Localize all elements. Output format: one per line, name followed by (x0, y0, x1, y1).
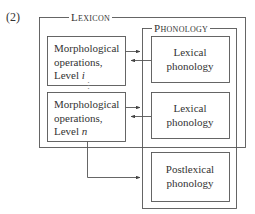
lexical-phonology-1-text: Lexical phonology (151, 46, 229, 73)
morph-line1: Morphological (54, 98, 119, 112)
example-number: (2) (6, 11, 20, 24)
level-var: n (82, 125, 88, 137)
morph-line2: operations, (54, 112, 119, 126)
level-label: Level (54, 69, 82, 81)
postlexical-text: Postlexical phonology (151, 163, 229, 190)
lexical-phonology-2-text: Lexical phonology (151, 102, 229, 129)
ellipsis: ⋮ (84, 80, 93, 93)
phonology-title: Phonology (152, 22, 210, 34)
postlexical-line2: phonology (151, 177, 229, 191)
lexical-line2: phonology (151, 60, 229, 74)
morph-box-level-i-text: Morphological operations, Level i (54, 42, 119, 83)
morph-box-level-n-text: Morphological operations, Level n (54, 98, 119, 139)
postlexical-line1: Postlexical (151, 163, 229, 177)
lexicon-title: Lexicon (69, 11, 112, 23)
lexical-line2: phonology (151, 116, 229, 130)
lexical-line1: Lexical (151, 102, 229, 116)
morph-line2: operations, (54, 56, 119, 70)
morph-line3: Level n (54, 125, 119, 139)
morph-line1: Morphological (54, 42, 119, 56)
lexical-line1: Lexical (151, 46, 229, 60)
level-label: Level (54, 125, 82, 137)
